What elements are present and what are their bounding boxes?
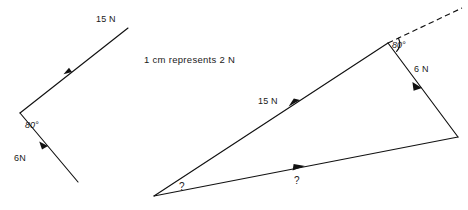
vector-diagram-figure: 15 N 6N 80° 1 cm represents 2 N 15 N 6 N… <box>0 0 468 210</box>
left-vector-15n-label: 15 N <box>96 14 116 24</box>
left-vector-6n-label: 6N <box>14 153 26 163</box>
triangle-side-resultant-label: ? <box>294 175 300 186</box>
triangle-angle-80-label: 80° <box>392 40 406 50</box>
figure-background <box>0 0 468 210</box>
triangle-side-15n-label: 15 N <box>258 96 278 106</box>
triangle-side-6n-label: 6 N <box>414 64 429 74</box>
scale-note-text: 1 cm represents 2 N <box>144 54 235 65</box>
triangle-angle-unknown-label: ? <box>179 181 185 192</box>
left-angle-80-label: 80° <box>25 120 39 130</box>
